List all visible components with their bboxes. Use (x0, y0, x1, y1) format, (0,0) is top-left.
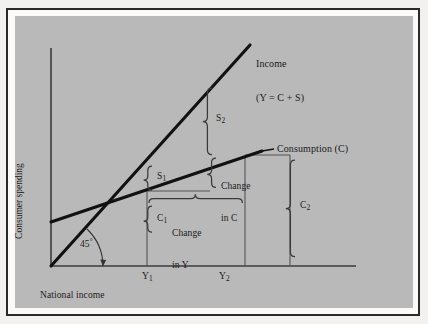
consumption-1-sub: 1 (163, 216, 167, 225)
bracket-change-in-c (207, 158, 216, 187)
x-tick-y2-base: Y (219, 271, 226, 281)
angle-45-label: 45° (80, 238, 93, 250)
consumption-2-label: C2 (300, 200, 310, 212)
x-tick-y2-sub: 2 (226, 274, 230, 283)
x-tick-y1: Y1 (142, 271, 153, 283)
change-in-y-line1: Change (172, 228, 202, 239)
x-tick-y2: Y2 (219, 271, 230, 283)
saving-2-sub: 2 (221, 116, 225, 125)
saving-1-label: S1 (157, 171, 166, 183)
bracket-c1 (144, 206, 152, 232)
income-label-line1: Income (256, 58, 304, 69)
angle-value: 45 (80, 239, 90, 249)
x-axis-label: National income (40, 290, 105, 301)
x-tick-y1-base: Y (142, 271, 149, 281)
consumption-label-leader (262, 149, 274, 151)
consumption-line-label: Consumption (C) (277, 143, 348, 154)
saving-2-label: S2 (216, 113, 225, 125)
change-in-y-label: Change in Y (172, 207, 202, 292)
plot-graphics (0, 0, 428, 324)
bracket-s1 (144, 166, 152, 190)
change-in-c-line1: Change (221, 181, 251, 192)
y-axis-label: Consumer spending (14, 152, 24, 250)
x-tick-y1-sub: 1 (149, 274, 153, 283)
change-in-c-line2: in C (221, 213, 251, 224)
change-in-y-line2: in Y (172, 260, 202, 271)
consumption-2-sub: 2 (306, 203, 310, 212)
change-in-c-label: Change in C (221, 160, 251, 245)
income-line-label: Income (Y = C + S) (256, 36, 304, 126)
income-label-line2: (Y = C + S) (256, 92, 304, 103)
figure-page: Income (Y = C + S) Consumption (C) S2 S1… (0, 0, 428, 324)
saving-1-sub: 1 (162, 174, 166, 183)
degree-symbol: ° (90, 237, 93, 246)
angle-arrow-head (100, 260, 106, 266)
consumption-1-label: C1 (157, 213, 167, 225)
